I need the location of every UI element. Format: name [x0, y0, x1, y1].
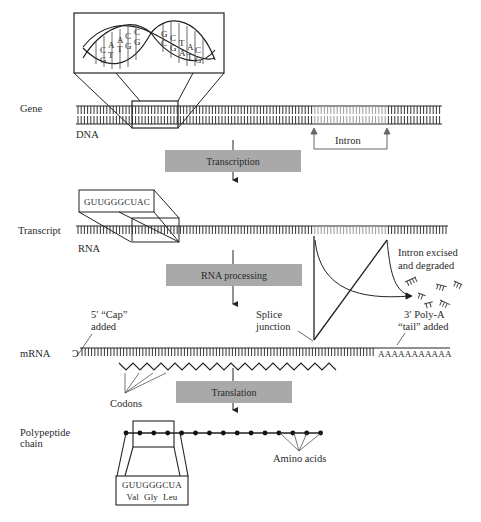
base: C — [161, 38, 167, 48]
excised-label-1: Intron excised — [398, 247, 459, 258]
base: G — [100, 55, 107, 65]
splice-label-1: Splice — [256, 309, 283, 320]
degraded-intron-fragments — [405, 277, 462, 309]
base: T — [108, 50, 114, 60]
translation-label: Translation — [211, 387, 256, 398]
cap-label-2: added — [91, 321, 117, 332]
codon-inset-amino-acids: Val Gly Leu — [126, 492, 177, 502]
base: T — [179, 38, 185, 48]
polypeptide-label-1: Polypeptide — [20, 427, 71, 438]
cap-label-1: 5′ “Cap” — [91, 309, 128, 320]
codon-pointer-lines — [125, 373, 166, 393]
base: G — [170, 43, 177, 53]
transcript-label: Transcript — [18, 225, 61, 236]
amino-acid-pointer-lines — [280, 433, 321, 451]
splice-label-2: junction — [255, 321, 291, 332]
dna-double-strand — [76, 101, 442, 128]
excised-label-2: and degraded — [398, 260, 455, 271]
translation-step: Translation — [176, 381, 292, 403]
polypeptide-chain — [124, 431, 323, 436]
base: A — [179, 48, 186, 58]
rna-processing-label: RNA processing — [201, 270, 267, 281]
gene-label: Gene — [20, 103, 42, 114]
mrna-strand: Ɔ AAAAAAAAAAA — [72, 348, 452, 359]
cap-symbol: Ɔ — [72, 348, 79, 359]
base: G — [134, 37, 141, 47]
gene-expression-diagram: C G A T A T C G C G G C C G T A A T C G — [0, 0, 481, 522]
polypeptide-label-2: chain — [20, 438, 43, 449]
transcription-label: Transcription — [206, 156, 260, 167]
codon-zigzag — [119, 363, 336, 370]
codon-inset-sequence: GUUGGGCUA — [122, 480, 182, 490]
mrna-label: mRNA — [20, 348, 51, 359]
base: T — [117, 44, 123, 54]
dna-helix-inset: C G A T A T C G C G G C C G T A A T C G — [74, 13, 224, 128]
base: T — [187, 52, 193, 62]
polya-label-1: 3′ Poly-A — [404, 309, 445, 320]
base: C — [125, 31, 131, 41]
base: G — [195, 55, 202, 65]
transcription-step: Transcription — [165, 150, 301, 172]
base: A — [187, 42, 194, 52]
base: C — [100, 45, 106, 55]
base: A — [108, 40, 115, 50]
polya-label-2: “tail” added — [398, 321, 449, 332]
rna-label: RNA — [78, 243, 101, 254]
dna-label: DNA — [76, 129, 99, 140]
codons-label: Codons — [110, 398, 142, 409]
base: C — [195, 45, 201, 55]
transcript-sequence: GUUGGGCUAC — [84, 197, 150, 207]
base: G — [125, 41, 132, 51]
base: C — [170, 33, 176, 43]
polya-sequence: AAAAAAAAAAA — [378, 349, 452, 359]
rna-processing-step: RNA processing — [166, 264, 302, 286]
amino-acids-label: Amino acids — [273, 453, 326, 464]
base: C — [134, 27, 140, 37]
intron-label: Intron — [335, 135, 361, 146]
